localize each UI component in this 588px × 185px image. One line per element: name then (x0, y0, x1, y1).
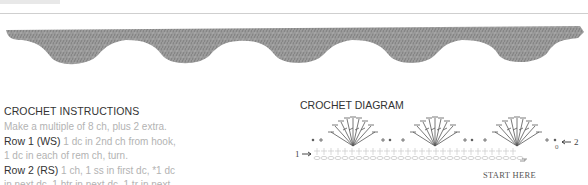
row-label: Row 1 (WS) (4, 135, 61, 147)
row1-label: 1 (295, 149, 300, 159)
row1-arrow-icon (302, 152, 311, 156)
svg-text:0: 0 (555, 143, 559, 151)
crochet-edging-photo (0, 24, 588, 74)
row2-arrow-icon (562, 140, 571, 144)
crochet-instructions: CROCHET INSTRUCTIONS Make a multiple of … (4, 104, 294, 185)
cropped-text-fragment (0, 0, 60, 4)
instruction-line: Make a multiple of 8 ch, plus 2 extra. (4, 120, 294, 134)
row-label: Row 2 (RS) (4, 164, 58, 176)
diagram-heading: CROCHET DIAGRAM (300, 99, 404, 111)
row1-stitches (314, 148, 516, 155)
scallop-fans (312, 117, 556, 146)
instruction-line: Row 1 (WS) 1 dc in 2nd ch from hook, (4, 134, 294, 149)
instructions-heading: CROCHET INSTRUCTIONS (4, 104, 294, 118)
instruction-line: 1 dc in each of rem ch, turn. (4, 149, 294, 163)
row2-label: 2 (574, 137, 579, 147)
divider (0, 13, 588, 14)
instruction-line: in next dc, 1 htr in next dc, 1 tr in ne… (4, 178, 294, 185)
start-here-label: START HERE (483, 170, 536, 180)
foundation-chain (314, 156, 523, 159)
crochet-diagram: 1 0 2 START HERE (295, 116, 585, 185)
instruction-line: Row 2 (RS) 1 ch, 1 ss in first dc, *1 dc (4, 163, 294, 178)
